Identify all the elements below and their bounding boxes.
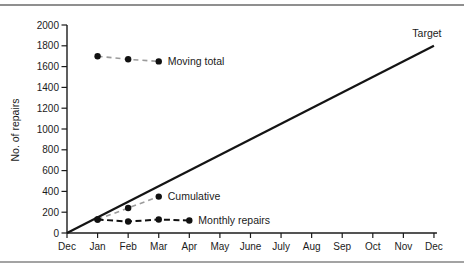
- series-line-monthly-repairs: [98, 219, 190, 221]
- y-tick-label: 800: [42, 144, 59, 155]
- repairs-line-chart: 0200400600800100012001400160018002000Dec…: [0, 0, 464, 268]
- y-tick-label: 2000: [37, 20, 60, 31]
- figure-container: 0200400600800100012001400160018002000Dec…: [0, 0, 464, 268]
- series-label-moving-total: Moving total: [168, 55, 225, 67]
- data-point-moving-total: [125, 56, 131, 62]
- y-axis-title: No. of repairs: [9, 98, 21, 161]
- series-line-target: [67, 46, 434, 233]
- x-tick-label: Apr: [182, 241, 198, 252]
- y-tick-label: 1000: [37, 124, 60, 135]
- series-label-monthly-repairs: Monthly repairs: [198, 214, 270, 226]
- y-tick-label: 600: [42, 165, 59, 176]
- series-group: [67, 46, 434, 233]
- x-tick-label: June: [240, 241, 262, 252]
- data-point-monthly-repairs: [94, 216, 100, 222]
- y-tick-label: 1600: [37, 61, 60, 72]
- x-tick-label: Jan: [90, 241, 106, 252]
- data-point-cumulative: [156, 193, 162, 199]
- data-point-monthly-repairs: [186, 217, 192, 223]
- y-tick-label: 0: [53, 228, 59, 239]
- data-point-moving-total: [94, 53, 100, 59]
- y-tick-label: 400: [42, 186, 59, 197]
- annotation-labels-group: TargetMoving totalCumulativeMonthly repa…: [168, 27, 442, 226]
- y-tick-label: 1800: [37, 40, 60, 51]
- y-tick-label: 1400: [37, 82, 60, 93]
- y-tick-label: 200: [42, 207, 59, 218]
- x-tick-label: Feb: [120, 241, 138, 252]
- x-tick-label: Sep: [333, 241, 351, 252]
- y-tick-label: 1200: [37, 103, 60, 114]
- data-point-moving-total: [156, 58, 162, 64]
- series-label-cumulative: Cumulative: [168, 190, 221, 202]
- data-point-monthly-repairs: [125, 218, 131, 224]
- x-tick-label: Nov: [394, 241, 412, 252]
- x-tick-label: Oct: [365, 241, 381, 252]
- x-tick-label: Mar: [150, 241, 168, 252]
- x-tick-label: May: [210, 241, 229, 252]
- x-tick-label: Dec: [425, 241, 443, 252]
- x-tick-label: Aug: [303, 241, 321, 252]
- data-point-monthly-repairs: [156, 216, 162, 222]
- bottom-horizontal-rule: [0, 261, 464, 263]
- series-label-target: Target: [412, 27, 441, 39]
- x-tick-label: July: [272, 241, 290, 252]
- data-point-cumulative: [125, 205, 131, 211]
- x-tick-label: Dec: [58, 241, 76, 252]
